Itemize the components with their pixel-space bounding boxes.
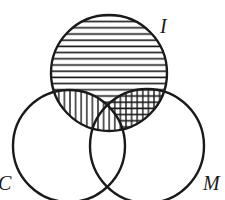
label-M: M xyxy=(202,172,221,194)
label-C: C xyxy=(0,172,12,194)
label-I: I xyxy=(159,15,168,37)
venn-diagram: I C M xyxy=(0,0,225,200)
